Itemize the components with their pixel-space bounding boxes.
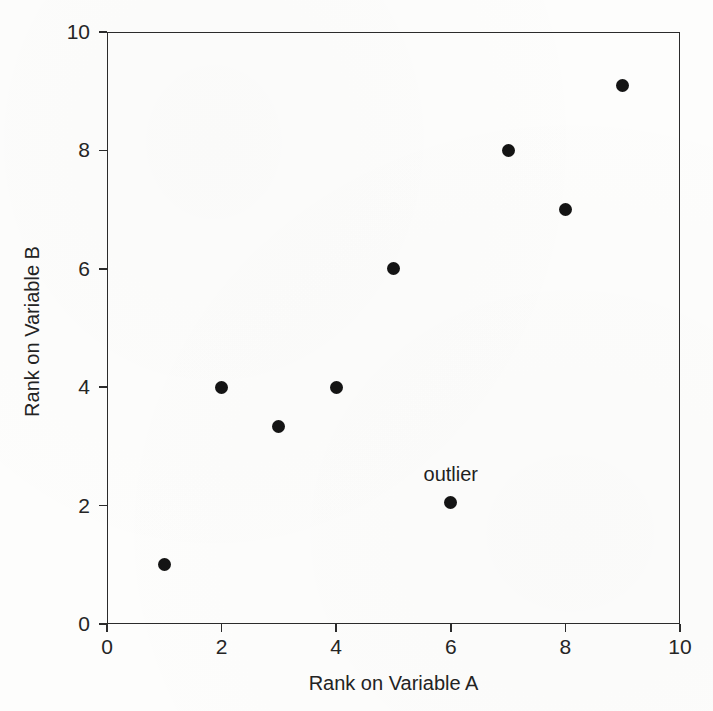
page-background: 0246810 0246810 outlier Rank on Variable… [0,0,713,711]
plot-frame [107,32,680,624]
y-tick-4 [99,386,107,388]
x-tick-2 [221,624,223,632]
x-tick-0 [106,624,108,632]
x-tick-label-10: 10 [650,636,710,657]
y-tick-6 [99,268,107,270]
data-point [215,381,228,394]
data-point [330,381,343,394]
x-tick-label-2: 2 [192,636,252,657]
y-tick-8 [99,150,107,152]
y-axis-title: Rank on Variable B [21,32,44,632]
y-tick-2 [99,505,107,507]
data-point [616,79,629,92]
annotation-outlier: outlier [424,463,478,486]
x-tick-10 [679,624,681,632]
scatter-plot-figure: 0246810 0246810 outlier Rank on Variable… [0,0,713,711]
x-axis-title: Rank on Variable A [107,672,680,695]
data-point [559,203,572,216]
x-tick-6 [450,624,452,632]
x-tick-8 [565,624,567,632]
x-tick-4 [335,624,337,632]
y-tick-10 [99,31,107,33]
x-tick-label-4: 4 [306,636,366,657]
x-tick-label-6: 6 [421,636,481,657]
data-point [502,144,515,157]
x-tick-label-8: 8 [535,636,595,657]
x-tick-label-0: 0 [77,636,137,657]
y-tick-0 [99,623,107,625]
